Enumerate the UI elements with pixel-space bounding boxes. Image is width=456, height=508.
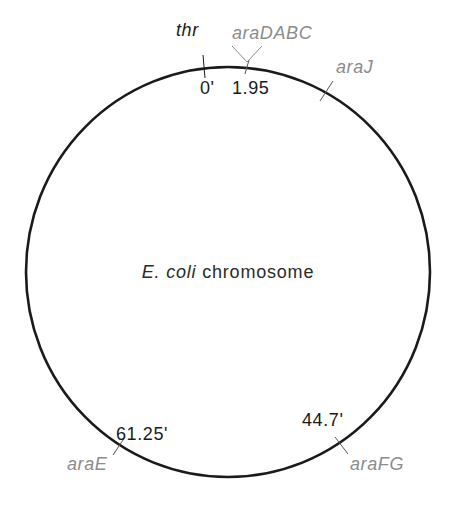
position-label-thr: 0' — [200, 79, 215, 97]
chromosome-title-rest: chromosome — [196, 262, 314, 282]
gene-label-araE: araE — [67, 455, 107, 473]
chromosome-map-diagram: thr araDABC araJ araFG araE 0' 1.95 44.7… — [0, 0, 456, 508]
gene-label-thr: thr — [176, 21, 199, 39]
pointer-araDABC-right — [247, 46, 262, 62]
pointer-araDABC-left — [232, 46, 247, 62]
position-label-araE: 61.25' — [116, 425, 168, 443]
gene-label-araDABC: araDABC — [232, 24, 312, 42]
chromosome-map-graphic — [0, 0, 456, 508]
chromosome-title-organism: E. coli — [142, 262, 197, 282]
gene-label-araJ: araJ — [336, 58, 373, 76]
position-label-araFG: 44.7' — [302, 411, 343, 429]
position-label-araDABC: 1.95 — [232, 79, 269, 97]
gene-label-araFG: araFG — [350, 455, 404, 473]
tick-thr — [203, 55, 205, 78]
chromosome-title: E. coli chromosome — [0, 262, 456, 282]
